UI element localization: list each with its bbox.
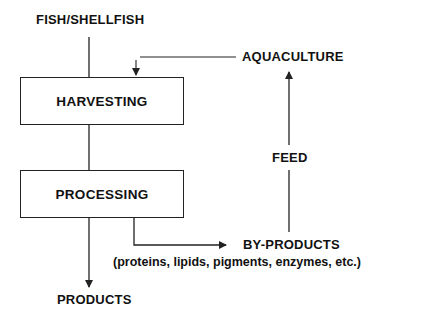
source-label: FISH/SHELLFISH bbox=[36, 12, 144, 27]
products-label: PRODUCTS bbox=[57, 292, 132, 307]
processing-label: PROCESSING bbox=[55, 187, 148, 202]
processing-to-byproducts-arrow bbox=[134, 218, 226, 245]
processing-box: PROCESSING bbox=[20, 170, 184, 218]
harvesting-box: HARVESTING bbox=[20, 77, 184, 125]
byproducts-label: BY-PRODUCTS bbox=[243, 237, 340, 252]
harvesting-label: HARVESTING bbox=[56, 94, 147, 109]
aquaculture-label: AQUACULTURE bbox=[242, 49, 344, 64]
feed-label: FEED bbox=[272, 150, 307, 165]
connector-lines bbox=[0, 0, 433, 318]
byproducts-detail: (proteins, lipids, pigments, enzymes, et… bbox=[113, 255, 361, 269]
